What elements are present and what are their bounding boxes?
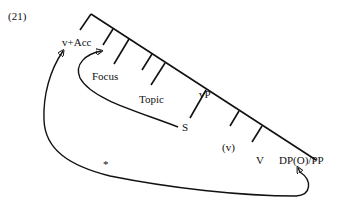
syntax-tree-diagram: (21) v+Acc Focus Topic vP S (v) V DP(O)/… bbox=[0, 0, 340, 207]
branch-topic bbox=[151, 63, 165, 85]
branch-focus bbox=[114, 39, 129, 64]
label-v-paren: (v) bbox=[222, 141, 235, 154]
branch-v-paren bbox=[230, 111, 239, 126]
branch-v-acc bbox=[80, 14, 91, 30]
label-v-acc: v+Acc bbox=[62, 36, 92, 48]
star-marker: * bbox=[103, 158, 109, 170]
movement-arrow-s-to-focus bbox=[78, 51, 178, 127]
label-focus: Focus bbox=[92, 70, 118, 82]
branch-v bbox=[252, 126, 262, 142]
example-number: (21) bbox=[8, 10, 27, 23]
movement-arrow-dp-to-v-acc bbox=[44, 51, 309, 196]
branch-1 bbox=[103, 29, 113, 45]
label-vp: vP bbox=[199, 88, 211, 100]
label-v: V bbox=[256, 154, 264, 166]
label-topic: Topic bbox=[139, 93, 164, 105]
branch-2 bbox=[142, 54, 152, 70]
tree-spine bbox=[80, 14, 316, 160]
label-s: S bbox=[182, 121, 188, 133]
arrowhead-dp bbox=[298, 168, 300, 172]
spine-line bbox=[91, 14, 316, 160]
label-dp-pp: DP(O)/PP bbox=[279, 154, 324, 167]
